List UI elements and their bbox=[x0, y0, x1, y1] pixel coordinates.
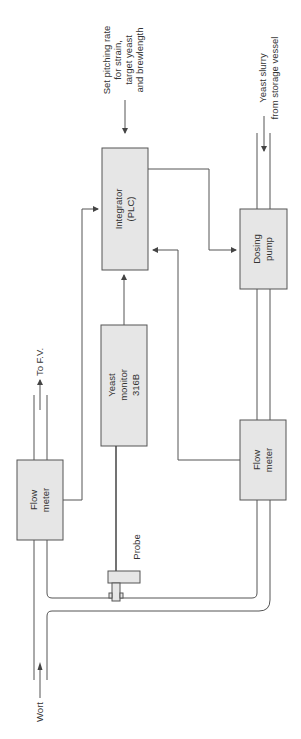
to-fv-text: To F.V. bbox=[34, 348, 45, 376]
yeast-monitor-label-2: monitor bbox=[118, 369, 129, 401]
setpoint-label: Set pitching rate for strain, target yea… bbox=[101, 26, 145, 95]
signal-flow-meter-wort-to-integrator bbox=[63, 209, 98, 500]
wort-label: Wort bbox=[34, 702, 45, 722]
process-diagram: Integrator (PLC) Yeast monitor 316B Flow… bbox=[0, 0, 301, 739]
wort-flow-arrow-head bbox=[38, 662, 43, 670]
setpoint-line-4: and brewlength bbox=[134, 28, 145, 93]
setpoint-line-3: target yeast bbox=[123, 35, 134, 85]
probe-label: Probe bbox=[131, 534, 142, 559]
yeast-monitor-label-1: Yeast bbox=[106, 373, 117, 397]
flow-meter-slurry-label-1: Flow bbox=[251, 450, 262, 470]
probe-node: Probe bbox=[108, 534, 142, 601]
slurry-line-2: from storage vessel bbox=[269, 37, 280, 120]
flow-meter-wort-label-2: meter bbox=[40, 488, 51, 512]
signal-integrator-to-dosing-pump bbox=[148, 169, 236, 250]
flow-meter-slurry-node: Flow meter bbox=[240, 420, 286, 500]
slurry-line-1: Yeast slurry bbox=[257, 53, 268, 103]
slurry-pipe-out-outer bbox=[47, 500, 270, 680]
slurry-in-label: Yeast slurry from storage vessel bbox=[257, 37, 280, 120]
signal-flow-meter-slurry-to-integrator bbox=[153, 250, 240, 460]
yeast-monitor-label-3: 316B bbox=[130, 374, 141, 396]
flow-meter-wort-node: Flow meter bbox=[17, 460, 63, 540]
dosing-pump-label-2: pump bbox=[263, 237, 274, 261]
integrator-label-2: (PLC) bbox=[125, 197, 136, 222]
yeast-monitor-node: Yeast monitor 316B bbox=[101, 325, 147, 446]
setpoint-line-1: Set pitching rate bbox=[101, 26, 112, 95]
dosing-pump-label-1: Dosing bbox=[251, 234, 262, 264]
dosing-pump-node: Dosing pump bbox=[240, 209, 287, 289]
setpoint-line-2: for strain, bbox=[112, 40, 123, 80]
wort-text: Wort bbox=[34, 702, 45, 722]
slurry-pipe-out-inner bbox=[47, 500, 257, 598]
flow-meter-slurry-label-2: meter bbox=[263, 448, 274, 472]
flow-meter-wort-label-1: Flow bbox=[28, 490, 39, 510]
integrator-node: Integrator (PLC) bbox=[102, 148, 148, 270]
integrator-label-1: Integrator bbox=[113, 189, 124, 230]
to-fv-label: To F.V. bbox=[34, 348, 45, 376]
